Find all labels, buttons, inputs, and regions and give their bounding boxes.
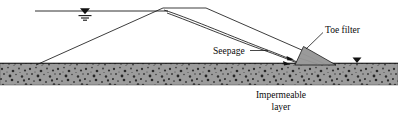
tailwater-level-symbol-icon bbox=[353, 58, 362, 64]
dam-cross-section-svg: Seepage Toe filter Impermeable layer bbox=[0, 0, 398, 119]
earth-dam-seepage-figure: Seepage Toe filter Impermeable layer bbox=[0, 0, 398, 119]
impermeable-label-line2: layer bbox=[272, 102, 292, 112]
dam-body-outline bbox=[36, 8, 336, 65]
seepage-label: Seepage bbox=[213, 46, 245, 56]
toe-filter-leader-line bbox=[306, 33, 323, 50]
water-table-symbol-icon bbox=[79, 8, 92, 20]
phreatic-seepage-lines bbox=[164, 10, 301, 64]
impermeable-label-line1: Impermeable bbox=[256, 90, 306, 100]
impermeable-layer bbox=[0, 63, 398, 85]
toe-filter-label: Toe filter bbox=[325, 25, 361, 35]
